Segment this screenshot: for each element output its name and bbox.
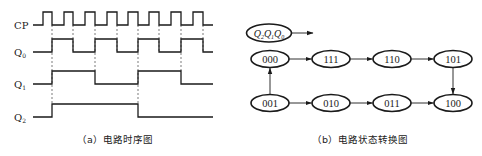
waveform-cp xyxy=(33,12,213,25)
waveform-q0 xyxy=(33,39,213,52)
state-label: 110 xyxy=(384,54,399,65)
states: 000111110101001010011100 xyxy=(251,51,472,112)
state-label: 111 xyxy=(324,54,339,65)
waveform-q1 xyxy=(33,71,213,84)
state-node-010: 010 xyxy=(312,95,350,112)
signal-label-q1: Q1 xyxy=(14,79,26,91)
state-label: 010 xyxy=(323,98,339,109)
signal-label-q2: Q2 xyxy=(14,112,26,124)
signal-label-q0: Q0 xyxy=(14,47,26,59)
state-node-011: 011 xyxy=(373,95,411,112)
state-node-000: 000 xyxy=(251,51,289,68)
state-label: 101 xyxy=(445,54,461,65)
state-label: 100 xyxy=(445,98,461,109)
state-node-110: 110 xyxy=(373,51,411,68)
legend: Q2Q1Q0 xyxy=(247,24,314,42)
state-diagram-caption: （b）电路状态转换图 xyxy=(312,134,408,145)
state-node-101: 101 xyxy=(434,51,472,68)
figure-canvas: CPQ0Q1Q2 （a）电路时序图 Q2Q1Q0 000111110101001… xyxy=(0,0,482,156)
waveform-q2 xyxy=(33,104,213,117)
legend-label: Q2Q1Q0 xyxy=(254,28,285,40)
state-label: 000 xyxy=(262,54,278,65)
signal-label-cp: CP xyxy=(14,20,29,31)
waveforms xyxy=(33,12,213,117)
state-label: 011 xyxy=(384,98,399,109)
state-node-100: 100 xyxy=(434,95,472,112)
signal-labels: CPQ0Q1Q2 xyxy=(14,20,29,124)
state-node-111: 111 xyxy=(312,51,350,68)
state-diagram: Q2Q1Q0 000111110101001010011100 （b）电路状态转… xyxy=(247,24,473,145)
clock-edge-guides xyxy=(52,25,203,104)
timing-diagram: CPQ0Q1Q2 （a）电路时序图 xyxy=(14,12,213,145)
timing-diagram-caption: （a）电路时序图 xyxy=(77,134,153,145)
transitions xyxy=(270,59,453,103)
state-node-001: 001 xyxy=(251,95,289,112)
state-label: 001 xyxy=(262,98,278,109)
